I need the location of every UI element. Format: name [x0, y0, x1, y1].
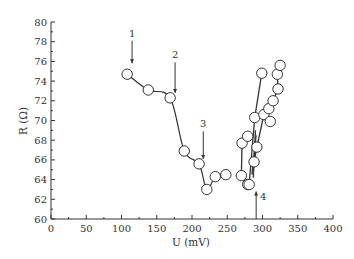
- data-point-open-circle: [210, 171, 220, 181]
- y-tick-label: 74: [34, 76, 47, 87]
- data-point-open-circle: [265, 116, 275, 126]
- arrowhead-icon: [173, 89, 177, 93]
- x-tick-label: 350: [288, 223, 307, 234]
- y-tick-label: 62: [34, 194, 47, 205]
- x-axis-label: U (mV): [172, 236, 210, 248]
- arrowhead-icon: [201, 155, 205, 159]
- y-tick-label: 72: [34, 95, 47, 106]
- data-point-open-circle: [236, 170, 246, 180]
- axes: [51, 22, 333, 219]
- y-axis-ticks: 6062646668707274767880: [34, 17, 55, 225]
- arrowhead-icon: [130, 59, 134, 63]
- data-point-open-circle: [268, 96, 278, 106]
- callout-label: 4: [260, 191, 266, 202]
- data-point-open-circle: [252, 142, 262, 152]
- y-tick-label: 60: [34, 214, 47, 225]
- data-point-open-circle: [165, 93, 175, 103]
- data-point-open-circle: [273, 84, 283, 94]
- data-point-open-circle: [221, 169, 231, 179]
- callout-annotations: 1234: [129, 28, 266, 219]
- data-point-open-circle: [275, 60, 285, 70]
- y-tick-label: 66: [34, 154, 47, 165]
- x-tick-label: 100: [112, 223, 131, 234]
- callout-label: 1: [129, 28, 135, 39]
- x-tick-label: 250: [218, 223, 237, 234]
- x-axis-ticks: 050100150200250300350400: [48, 215, 343, 234]
- data-point-open-circle: [122, 69, 132, 79]
- data-point-open-circle: [143, 85, 153, 95]
- arrowhead-icon: [254, 191, 258, 195]
- y-tick-label: 64: [34, 174, 47, 185]
- x-tick-label: 400: [323, 223, 342, 234]
- y-tick-label: 80: [34, 17, 47, 28]
- x-tick-label: 300: [253, 223, 272, 234]
- curve-sweep-down: [127, 74, 226, 189]
- data-point-open-circle: [257, 68, 267, 78]
- x-tick-label: 150: [147, 223, 166, 234]
- x-tick-label: 200: [182, 223, 201, 234]
- y-tick-label: 76: [34, 56, 47, 67]
- data-point-open-circle: [202, 184, 212, 194]
- data-point-open-circle: [242, 131, 252, 141]
- x-tick-label: 50: [80, 223, 93, 234]
- y-tick-label: 78: [34, 36, 47, 47]
- y-axis-label: R (Ω): [17, 107, 29, 135]
- data-point-open-circle: [194, 159, 204, 169]
- resistance-voltage-chart: 050100150200250300350400 606264666870727…: [0, 0, 354, 259]
- data-point-open-circle: [179, 146, 189, 156]
- y-tick-label: 68: [34, 135, 47, 146]
- x-tick-label: 0: [48, 223, 54, 234]
- data-point-open-circle: [244, 179, 254, 189]
- y-tick-label: 70: [34, 115, 47, 126]
- callout-label: 3: [200, 118, 206, 129]
- callout-label: 2: [172, 49, 178, 60]
- data-point-open-circle: [249, 157, 259, 167]
